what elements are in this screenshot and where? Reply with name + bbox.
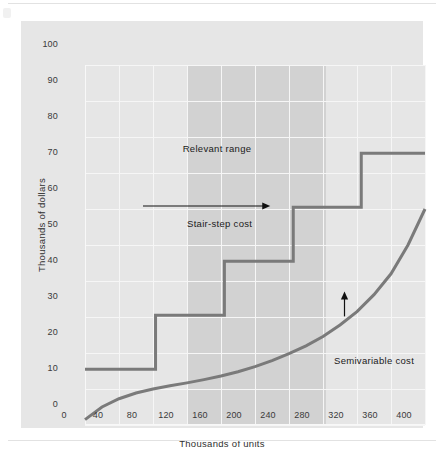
stair-step-arrow-icon <box>21 21 423 428</box>
page-bottom-rule <box>8 440 436 441</box>
chart-panel: 0102030405060708090100 04080120160200240… <box>21 21 423 428</box>
page-top-rule <box>8 3 436 4</box>
figure-page: 0102030405060708090100 04080120160200240… <box>0 0 444 454</box>
gridline-vertical <box>425 65 426 425</box>
stair-step-arrow-head <box>262 202 270 209</box>
page-corner-mark <box>3 8 11 18</box>
semivariable-arrow-head <box>341 292 348 300</box>
